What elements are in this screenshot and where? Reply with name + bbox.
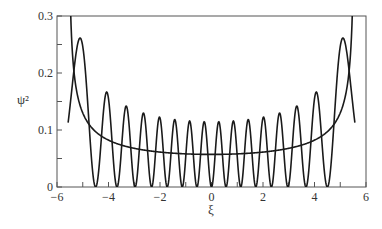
y-tick-label: 0.1 xyxy=(38,123,53,137)
x-tick-label: −2 xyxy=(154,190,167,204)
quantum-density-curve xyxy=(68,38,355,187)
plot-area xyxy=(57,16,366,187)
y-tick-label: 0.2 xyxy=(38,66,53,80)
axis-ticks xyxy=(57,16,366,187)
chart: −6−4−20246 00.10.20.3 ξ ψ² xyxy=(0,0,382,229)
x-axis-label: ξ xyxy=(208,202,214,217)
x-tick-label: 6 xyxy=(363,190,369,204)
plot-frame xyxy=(57,16,366,187)
x-tick-label: 2 xyxy=(260,190,266,204)
curves xyxy=(68,0,355,187)
y-tick-label: 0 xyxy=(47,180,53,194)
y-tick-label: 0.3 xyxy=(38,9,53,23)
y-axis-label: ψ² xyxy=(17,92,29,107)
x-tick-label: 4 xyxy=(312,190,318,204)
y-tick-labels: 00.10.20.3 xyxy=(38,9,53,194)
x-tick-label: −4 xyxy=(102,190,115,204)
